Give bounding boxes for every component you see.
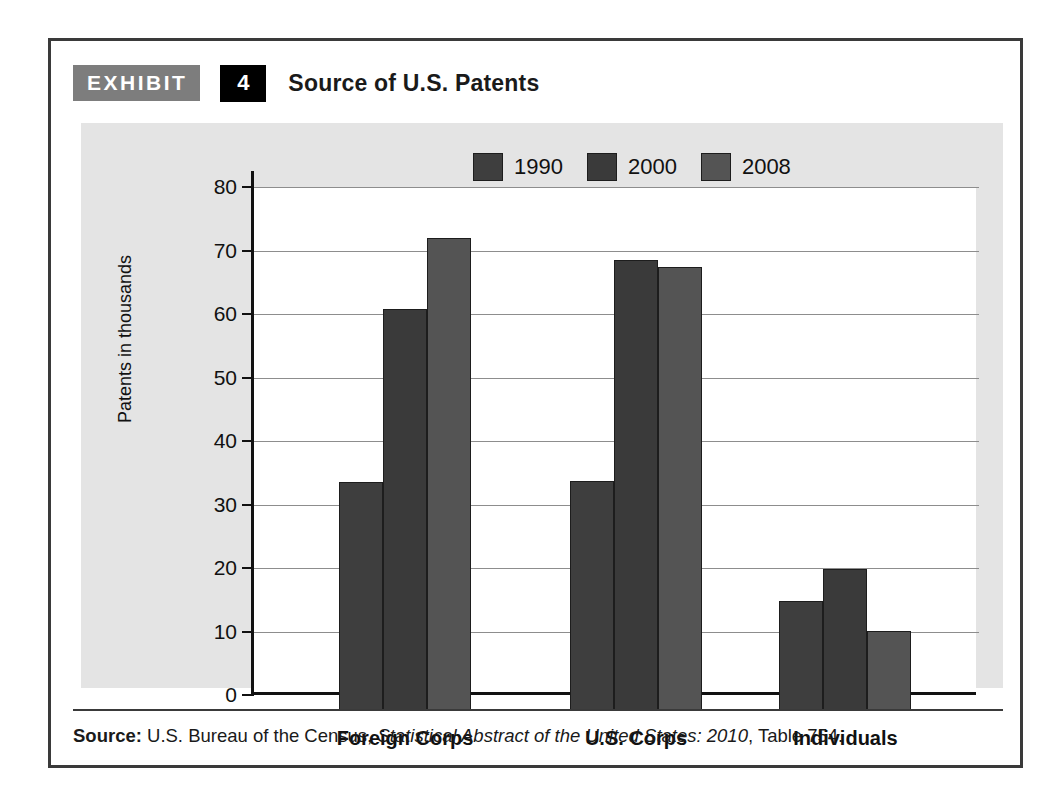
legend-label-1990: 1990 bbox=[514, 154, 563, 180]
source-divider bbox=[73, 709, 1003, 711]
exhibit-number-badge: 4 bbox=[220, 65, 266, 102]
y-axis-tick bbox=[242, 567, 254, 569]
legend-label-2008: 2008 bbox=[742, 154, 791, 180]
y-axis-tick bbox=[242, 440, 254, 442]
gridline bbox=[254, 187, 979, 188]
bar-u-s-corps-2008 bbox=[658, 267, 702, 711]
plot-area: 01020304050607080 Foreign CorpsU.S. Corp… bbox=[251, 187, 976, 695]
y-axis-tick-label: 40 bbox=[214, 429, 237, 453]
y-axis-tick-label: 70 bbox=[214, 239, 237, 263]
legend-swatch-2000 bbox=[587, 153, 617, 181]
source-text-after: , Table 754. bbox=[748, 725, 843, 746]
y-axis-tick-label: 30 bbox=[214, 493, 237, 517]
y-axis-tick-label: 80 bbox=[214, 175, 237, 199]
bar-foreign-corps-2000 bbox=[383, 309, 427, 711]
bar-foreign-corps-2008 bbox=[427, 238, 471, 711]
y-axis-tick-label: 20 bbox=[214, 556, 237, 580]
bar-u-s-corps-1990 bbox=[570, 481, 614, 711]
chart-legend: 1990 2000 2008 bbox=[473, 153, 791, 181]
y-axis-tick bbox=[242, 250, 254, 252]
exhibit-page: EXHIBIT 4 Source of U.S. Patents 1990 20… bbox=[0, 0, 1063, 807]
exhibit-card: EXHIBIT 4 Source of U.S. Patents 1990 20… bbox=[48, 38, 1023, 768]
y-axis-tick bbox=[242, 694, 254, 696]
bar-group: Individuals bbox=[779, 203, 911, 711]
legend-swatch-1990 bbox=[473, 153, 503, 181]
y-axis-tick bbox=[242, 631, 254, 633]
bar-individuals-2008 bbox=[867, 631, 911, 711]
chart-panel: 1990 2000 2008 Patents in thousands 0102… bbox=[81, 123, 1003, 688]
legend-item-2008: 2008 bbox=[701, 153, 791, 181]
legend-item-1990: 1990 bbox=[473, 153, 563, 181]
source-text-before: U.S. Bureau of the Census, bbox=[142, 725, 378, 746]
exhibit-tag-label: EXHIBIT bbox=[73, 65, 200, 101]
bars-layer: Foreign CorpsU.S. CorpsIndividuals bbox=[257, 203, 979, 711]
y-axis-tick-label: 60 bbox=[214, 302, 237, 326]
bar-group: Foreign Corps bbox=[339, 203, 471, 711]
y-axis-tick bbox=[242, 377, 254, 379]
legend-item-2000: 2000 bbox=[587, 153, 677, 181]
source-label: Source: bbox=[73, 725, 142, 746]
bar-u-s-corps-2000 bbox=[614, 260, 658, 711]
y-axis-tick bbox=[242, 186, 254, 188]
legend-swatch-2008 bbox=[701, 153, 731, 181]
source-note: Source: U.S. Bureau of the Census, Stati… bbox=[73, 725, 843, 747]
y-axis-tick-label: 0 bbox=[225, 683, 237, 707]
bar-individuals-2000 bbox=[823, 569, 867, 711]
y-axis-tick-label: 10 bbox=[214, 620, 237, 644]
plot-wrapper: 01020304050607080 Foreign CorpsU.S. Corp… bbox=[251, 171, 976, 701]
exhibit-header: EXHIBIT 4 Source of U.S. Patents bbox=[73, 63, 539, 103]
y-axis-tick-label: 50 bbox=[214, 366, 237, 390]
source-publication-title: Statistical Abstract of the United State… bbox=[377, 725, 748, 746]
exhibit-title: Source of U.S. Patents bbox=[288, 70, 539, 97]
y-axis-title: Patents in thousands bbox=[115, 255, 136, 423]
bar-foreign-corps-1990 bbox=[339, 482, 383, 711]
bar-individuals-1990 bbox=[779, 601, 823, 711]
legend-label-2000: 2000 bbox=[628, 154, 677, 180]
y-axis-tick bbox=[242, 313, 254, 315]
y-axis-tick bbox=[242, 504, 254, 506]
bar-group: U.S. Corps bbox=[570, 203, 702, 711]
